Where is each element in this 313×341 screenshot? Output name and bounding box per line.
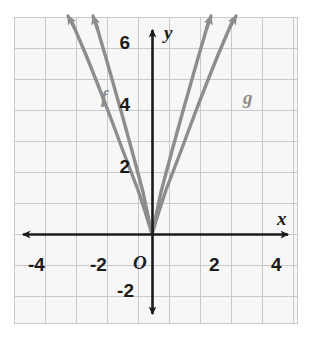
curve-label-f: f — [101, 87, 107, 106]
curve-label-g: g — [243, 88, 253, 107]
origin-label: O — [133, 253, 147, 272]
y-tick-label-4: 4 — [119, 95, 130, 114]
y-tick-label-2: 2 — [119, 157, 130, 176]
x-axis-label: x — [277, 209, 287, 228]
x-tick-label-4: 4 — [271, 255, 282, 274]
y-axis-label: y — [164, 23, 172, 42]
graph-figure: 6 4 2 -2 -4 -2 2 4 O y x f g — [0, 0, 313, 341]
x-tick-label-2: 2 — [209, 255, 220, 274]
y-tick-label-neg2: -2 — [117, 281, 134, 300]
plot-background — [14, 17, 298, 324]
coordinate-plane-svg — [0, 0, 313, 341]
x-tick-label-neg4: -4 — [28, 255, 45, 274]
y-tick-label-6: 6 — [119, 33, 130, 52]
x-tick-label-neg2: -2 — [90, 255, 107, 274]
